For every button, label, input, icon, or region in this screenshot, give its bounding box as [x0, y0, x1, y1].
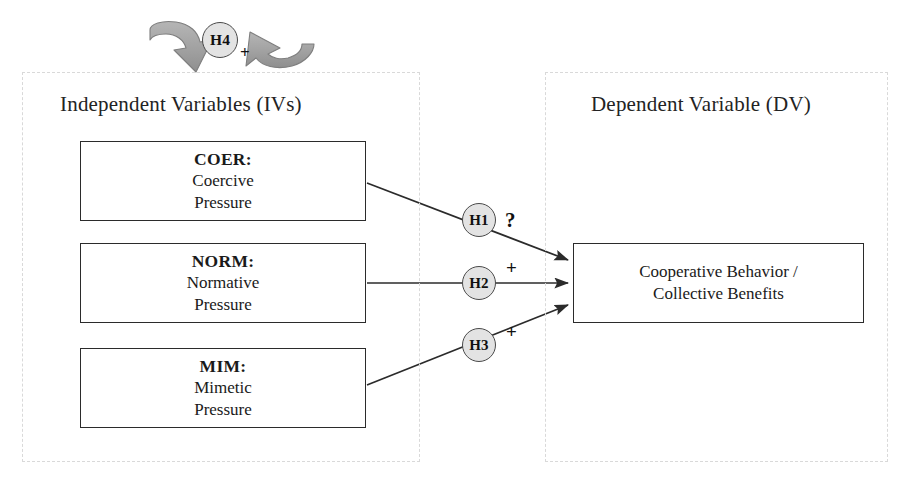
- variable-code-mim: MIM:: [200, 355, 247, 377]
- hypothesis-badge-h1[interactable]: H1: [462, 203, 496, 237]
- variable-box-mim[interactable]: MIM: Mimetic Pressure: [80, 348, 366, 428]
- hypothesis-badge-h2[interactable]: H2: [462, 266, 496, 300]
- dependent-line2: Collective Benefits: [653, 283, 784, 305]
- hypothesis-sign-h1: ?: [505, 210, 516, 231]
- hypothesis-sign-h4: +: [240, 44, 250, 61]
- variable-line1-norm: Normative: [187, 272, 260, 294]
- hypothesis-sign-h3: +: [506, 322, 517, 341]
- variable-line2-norm: Pressure: [194, 294, 252, 316]
- hypothesis-badge-h4[interactable]: H4: [202, 22, 238, 58]
- dependent-variable-title: Dependent Variable (DV): [591, 92, 811, 117]
- variable-line1-mim: Mimetic: [194, 377, 252, 399]
- variable-line2-mim: Pressure: [194, 399, 252, 421]
- hypothesis-badge-h3[interactable]: H3: [462, 328, 496, 362]
- h4-loop-arrow-right: [246, 32, 314, 68]
- variable-code-norm: NORM:: [192, 250, 255, 272]
- variable-box-dependent[interactable]: Cooperative Behavior / Collective Benefi…: [573, 243, 864, 323]
- variable-line1-coer: Coercive: [192, 170, 253, 192]
- variable-box-norm[interactable]: NORM: Normative Pressure: [80, 243, 366, 323]
- variable-line2-coer: Pressure: [194, 192, 252, 214]
- independent-variables-title: Independent Variables (IVs): [60, 92, 302, 117]
- dependent-line1: Cooperative Behavior /: [639, 261, 798, 283]
- variable-code-coer: COER:: [194, 148, 252, 170]
- variable-box-coer[interactable]: COER: Coercive Pressure: [80, 141, 366, 221]
- hypothesis-sign-h2: +: [506, 258, 517, 277]
